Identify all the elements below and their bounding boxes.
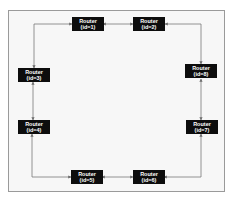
router-id-label: (id=3) <box>18 75 50 82</box>
connection-lines <box>0 0 234 199</box>
router-node-2: Router (id=2) <box>133 17 165 31</box>
link-2-8 <box>165 24 201 64</box>
link-5-4 <box>32 134 71 177</box>
router-id-label: (id=5) <box>71 177 103 184</box>
router-id-label: (id=1) <box>72 24 104 31</box>
router-node-8: Router (id=8) <box>185 64 217 78</box>
router-id-label: (id=6) <box>133 177 165 184</box>
router-id-label: (id=7) <box>186 127 218 134</box>
router-node-3: Router (id=3) <box>18 68 50 82</box>
router-id-label: (id=4) <box>18 127 50 134</box>
link-3-1 <box>34 24 72 68</box>
router-node-1: Router (id=1) <box>72 17 104 31</box>
link-7-6 <box>164 134 201 177</box>
router-id-label: (id=2) <box>133 24 165 31</box>
router-node-5: Router (id=5) <box>71 170 103 184</box>
router-node-7: Router (id=7) <box>186 120 218 134</box>
router-node-6: Router (id=6) <box>133 170 165 184</box>
router-id-label: (id=8) <box>185 71 217 78</box>
router-node-4: Router (id=4) <box>18 120 50 134</box>
